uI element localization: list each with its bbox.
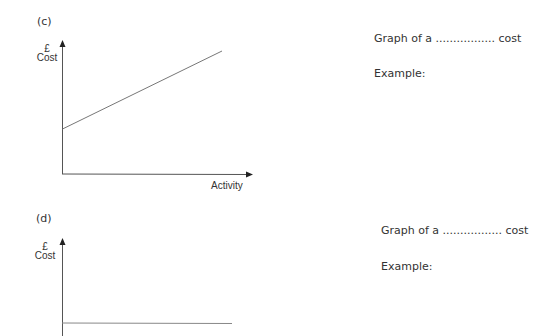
y-axis-arrow-icon [60,40,66,47]
example-label-d: Example: [381,260,432,273]
y-axis-arrow-icon [60,238,66,245]
y-axis-label-d: Cost [29,251,61,261]
graph-c-plot [0,0,539,336]
part-label-d: (d) [36,212,52,225]
x-axis-label-c: Activity [211,180,243,191]
x-axis-arrow-icon [246,172,253,178]
example-label-c: Example: [374,67,425,80]
cost-line-c [63,51,223,129]
x-axis-c [62,174,248,175]
question-c: Graph of a ................. cost [374,32,521,45]
question-d: Graph of a ................. cost [381,224,528,237]
cost-line-d [62,323,232,324]
